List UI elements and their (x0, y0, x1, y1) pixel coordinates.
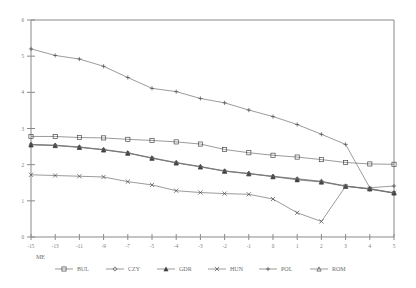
legend-label-rom: ROM (332, 266, 346, 272)
marker-pol (102, 64, 106, 68)
marker-pol (247, 108, 251, 112)
x-tick-label: 0 (272, 243, 275, 249)
y-tick-label: 1 (21, 198, 24, 204)
x-tick-label: -11 (76, 243, 83, 249)
marker-pol (77, 57, 81, 61)
x-tick-label: -2 (222, 243, 227, 249)
legend-label-czy: CZY (128, 266, 141, 272)
series-bul (29, 134, 396, 166)
series-rom (29, 143, 396, 195)
x-tick-label: -4 (174, 243, 179, 249)
y-tick-label: 3 (21, 126, 24, 132)
y-tick-label: 0 (21, 234, 24, 240)
legend-item-bul[interactable]: BUL (55, 266, 89, 272)
y-tick-label: 6 (21, 17, 24, 23)
marker-pol (174, 90, 178, 94)
x-tick-label: 4 (369, 243, 372, 249)
legend-graphic: BULCZYGDRHUNPOLROM (0, 258, 416, 280)
legend-marker-pol (266, 267, 270, 271)
legend-item-czy[interactable]: CZY (106, 266, 141, 272)
legend-label-gdr: GDR (179, 266, 192, 272)
legend-label-bul: BUL (77, 266, 89, 272)
legend-label-pol: POL (281, 266, 293, 272)
marker-pol (319, 132, 323, 136)
marker-pol (150, 86, 154, 90)
chart-legend: BULCZYGDRHUNPOLROM (0, 258, 416, 280)
x-tick-label: 5 (393, 243, 396, 249)
legend-item-rom[interactable]: ROM (310, 266, 346, 272)
y-tick-label: 2 (21, 162, 24, 168)
marker-pol (223, 101, 227, 105)
x-tick-label: -15 (28, 243, 35, 249)
marker-pol (271, 114, 275, 118)
x-tick-label: -9 (101, 243, 106, 249)
legend-label-hun: HUN (230, 266, 244, 272)
x-tick-label: -7 (126, 243, 131, 249)
marker-pol (126, 75, 130, 79)
x-tick-label: 3 (344, 243, 347, 249)
chart-axes: 0123456-15-13-11-9-7-5-4-3-2-1012345ME (0, 0, 416, 288)
marker-pol (344, 142, 348, 146)
x-tick-label: 1 (296, 243, 299, 249)
y-tick-label: 4 (21, 89, 24, 95)
marker-pol (29, 47, 33, 51)
marker-pol (198, 96, 202, 100)
marker-pol (392, 184, 396, 188)
x-tick-label: -1 (247, 243, 252, 249)
x-tick-label: 2 (320, 243, 323, 249)
x-tick-label: -13 (52, 243, 59, 249)
legend-item-gdr[interactable]: GDR (157, 266, 192, 272)
marker-pol (53, 53, 57, 57)
x-tick-label: -5 (150, 243, 155, 249)
x-tick-label: -3 (198, 243, 203, 249)
series-hun (29, 173, 396, 224)
legend-item-hun[interactable]: HUN (208, 266, 244, 272)
marker-pol (295, 122, 299, 126)
y-tick-label: 5 (21, 53, 24, 59)
marker-hun (319, 219, 323, 223)
chart-container: 0123456-15-13-11-9-7-5-4-3-2-1012345ME B… (0, 0, 416, 288)
legend-item-pol[interactable]: POL (259, 266, 293, 272)
marker-hun (295, 211, 299, 215)
